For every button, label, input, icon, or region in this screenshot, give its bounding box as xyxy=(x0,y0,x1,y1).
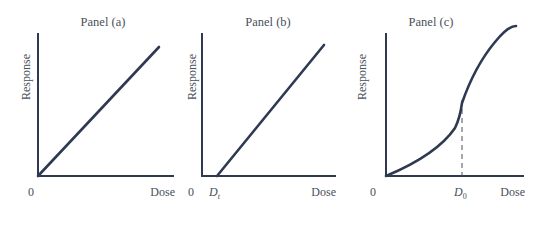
panel-c-ylabel: Response xyxy=(355,54,369,100)
panel-c-title: Panel (c) xyxy=(409,15,454,29)
panel-a-line xyxy=(38,47,159,176)
panel-b-threshold-label: Dt xyxy=(208,185,221,201)
panel-a-origin-label: 0 xyxy=(28,185,34,199)
dose-response-figure: Panel (a) Response 0 Dose Panel (b) Resp… xyxy=(0,0,546,236)
panel-b-origin-label: 0 xyxy=(188,185,194,199)
panel-b-xlabel: Dose xyxy=(311,185,336,199)
panel-a-xlabel: Dose xyxy=(150,185,175,199)
panel-b: Panel (b) Response 0 Dt Dose xyxy=(185,15,336,201)
panel-c-origin-label: 0 xyxy=(370,185,376,199)
panel-a-ylabel: Response xyxy=(19,54,33,100)
panel-c-axes xyxy=(386,33,524,176)
panel-c-curve xyxy=(386,26,516,176)
panel-b-ylabel: Response xyxy=(185,54,199,100)
panel-a-title: Panel (a) xyxy=(81,15,126,29)
panel-c: Panel (c) Response 0 D0 Dose xyxy=(355,15,525,201)
panel-b-title: Panel (b) xyxy=(245,15,290,29)
panel-c-d0-label: D0 xyxy=(453,185,467,201)
panel-b-line xyxy=(217,45,324,176)
panel-c-xlabel: Dose xyxy=(500,185,525,199)
panel-a: Panel (a) Response 0 Dose xyxy=(19,15,175,199)
